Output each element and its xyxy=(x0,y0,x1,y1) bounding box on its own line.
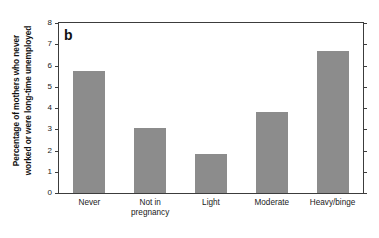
y-axis-tick-label: 7 xyxy=(38,40,52,48)
y-axis-tick-right xyxy=(363,23,367,24)
y-axis-tick-right xyxy=(363,151,367,152)
plot-frame xyxy=(58,22,364,194)
bar xyxy=(195,154,227,193)
y-axis-title-line-2: worked or were long-time unemployed xyxy=(23,25,35,175)
y-axis-tick-left xyxy=(55,193,59,194)
plot-area xyxy=(59,23,363,193)
y-axis-tick-label: 1 xyxy=(38,168,52,176)
x-axis-tick-label: Not inpregnancy xyxy=(120,198,181,218)
y-axis-tick-label: 2 xyxy=(38,147,52,155)
y-axis-tick-label: 0 xyxy=(38,189,52,197)
y-axis-tick-right xyxy=(363,66,367,67)
y-axis-tick-left xyxy=(55,129,59,130)
y-axis-tick-right xyxy=(363,108,367,109)
bar xyxy=(134,128,166,193)
y-axis-tick-left xyxy=(55,66,59,67)
y-axis-tick-right xyxy=(363,44,367,45)
bar xyxy=(317,51,349,193)
y-axis-title-text: Percentage of mothers who never worked o… xyxy=(12,25,35,175)
y-axis-tick-left xyxy=(55,23,59,24)
figure-panel-b: Percentage of mothers who never worked o… xyxy=(0,0,379,238)
x-axis-tick-label-line: Never xyxy=(78,198,100,207)
x-axis-tick-label: Heavy/binge xyxy=(302,198,363,208)
y-axis-tick-left xyxy=(55,172,59,173)
y-axis-tick-label: 6 xyxy=(38,62,52,70)
panel-letter: b xyxy=(64,28,73,42)
y-axis-tick-label: 4 xyxy=(38,104,52,112)
x-axis-tick-label-line: Light xyxy=(202,198,220,207)
y-axis-tick-label: 3 xyxy=(38,125,52,133)
bar xyxy=(73,71,105,193)
y-axis-tick-label: 5 xyxy=(38,83,52,91)
y-axis-tick-left xyxy=(55,108,59,109)
y-axis-tick-right xyxy=(363,172,367,173)
y-axis-tick-left xyxy=(55,151,59,152)
y-axis-tick-left xyxy=(55,87,59,88)
y-axis-tick-left xyxy=(55,44,59,45)
x-axis-tick-label: Never xyxy=(59,198,120,208)
x-axis-tick-label-line: Not in xyxy=(140,198,161,207)
y-axis-tick-right xyxy=(363,129,367,130)
y-axis-title-line-1: Percentage of mothers who never xyxy=(12,34,22,165)
x-axis-tick-label-line: pregnancy xyxy=(120,208,181,218)
y-axis-tick-right xyxy=(363,87,367,88)
bar xyxy=(256,112,288,193)
x-axis-tick-label-line: Moderate xyxy=(254,198,289,207)
x-axis-tick-label: Light xyxy=(181,198,242,208)
x-axis-tick-label-line: Heavy/binge xyxy=(310,198,356,207)
x-axis-tick-label: Moderate xyxy=(241,198,302,208)
y-axis-tick-right xyxy=(363,193,367,194)
y-axis-tick-label: 8 xyxy=(38,19,52,27)
